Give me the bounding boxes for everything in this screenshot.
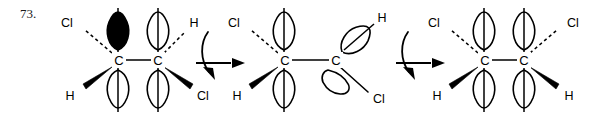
substituent-label-upper-left-3: Cl xyxy=(428,16,440,30)
substituent-label-upper-right-2: H xyxy=(377,11,386,25)
orbital-right-down-outline-1 xyxy=(147,68,168,112)
chemistry-diagram: 73. Cl H H Cl xyxy=(0,0,592,114)
question-number: 73. xyxy=(20,6,36,21)
rotation-arrow-1 xyxy=(196,32,245,80)
orbital-left-down-outline-3 xyxy=(473,68,494,112)
orbital-right-up-outline-3 xyxy=(513,8,534,52)
orbital-left-up-outline-3 xyxy=(473,8,494,52)
substituent-label-lower-left-3: H xyxy=(432,89,441,103)
substituent-label-upper-right-1: H xyxy=(189,16,198,30)
orbital-left-down-outline-1 xyxy=(107,68,128,112)
orbital-right-up-outline-1 xyxy=(147,8,168,52)
figure-page: 73. Cl H H Cl xyxy=(0,0,592,114)
arrow-head-2 xyxy=(432,58,445,68)
orbital-left-down-outline-2 xyxy=(273,68,294,112)
carbon-label-right-3: C xyxy=(519,53,528,68)
arrow-head-1 xyxy=(232,58,245,68)
arrow-curve-1 xyxy=(202,32,209,72)
carbon-label-right-2: C xyxy=(331,53,340,68)
arrow-curve-head-2 xyxy=(403,67,415,80)
substituent-label-upper-left-2: Cl xyxy=(228,16,240,30)
rotation-arrow-2 xyxy=(396,32,445,80)
carbon-label-left-1: C xyxy=(114,53,123,68)
orbital-right-down-outline-3 xyxy=(513,68,534,112)
arrow-curve-2 xyxy=(402,32,409,72)
carbon-label-left-3: C xyxy=(480,53,489,68)
orbital-left-up-outline-2 xyxy=(273,8,294,52)
substituent-label-lower-left-2: H xyxy=(232,89,241,103)
structure-2: Cl H H xyxy=(228,8,386,112)
structure-1: Cl H H Cl xyxy=(61,8,209,112)
substituent-label-upper-left-1: Cl xyxy=(61,16,73,30)
substituent-label-lower-right-1: Cl xyxy=(197,89,209,103)
carbon-label-left-2: C xyxy=(280,53,289,68)
substituent-label-upper-right-3: Cl xyxy=(567,16,579,30)
substituent-label-lower-right-3: H xyxy=(564,89,573,103)
orbital-left-up-filled-1 xyxy=(107,8,128,52)
arrow-curve-head-1 xyxy=(203,67,215,80)
substituent-label-lower-right-2: Cl xyxy=(373,92,385,106)
carbon-label-right-1: C xyxy=(153,53,162,68)
structure-3: Cl Cl H H xyxy=(428,8,579,112)
substituent-label-lower-left-1: H xyxy=(65,89,74,103)
